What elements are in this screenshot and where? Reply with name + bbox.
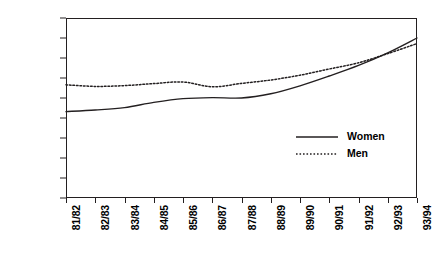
x-tick-mark xyxy=(242,198,243,203)
x-tick-mark xyxy=(154,198,155,203)
x-tick-mark xyxy=(212,198,213,203)
legend-swatch-dotted-icon xyxy=(296,149,338,159)
x-tick-label: 87/88 xyxy=(246,205,258,230)
legend-label-men: Men xyxy=(347,145,368,162)
legend-item-women: Women xyxy=(296,128,385,145)
x-tick-label: 81/82 xyxy=(70,205,82,230)
x-tick-label: 84/85 xyxy=(158,205,170,230)
x-tick-label: 86/87 xyxy=(216,205,228,230)
legend-swatch-solid-icon xyxy=(296,132,338,142)
x-tick-label: 93/94 xyxy=(421,205,433,230)
x-tick-label: 91/92 xyxy=(363,205,375,230)
x-tick-label: 88/89 xyxy=(275,205,287,230)
legend-item-men: Men xyxy=(296,145,385,162)
x-tick-mark xyxy=(125,198,126,203)
legend-label-women: Women xyxy=(347,128,385,145)
x-tick-mark xyxy=(271,198,272,203)
x-tick-label: 85/86 xyxy=(187,205,199,230)
x-tick-mark xyxy=(183,198,184,203)
x-tick-mark xyxy=(95,198,96,203)
x-tick-mark xyxy=(66,198,67,203)
x-tick-label: 82/83 xyxy=(99,205,111,230)
x-tick-label: 89/90 xyxy=(304,205,316,230)
plot-area xyxy=(66,18,417,198)
line-chart: 0100,000200,000300,000400,000500,000600,… xyxy=(0,0,447,260)
x-tick-mark xyxy=(329,198,330,203)
x-tick-label: 92/93 xyxy=(392,205,404,230)
x-tick-mark xyxy=(388,198,389,203)
x-tick-mark xyxy=(300,198,301,203)
x-tick-label: 90/91 xyxy=(333,205,345,230)
x-tick-label: 83/84 xyxy=(129,205,141,230)
x-tick-mark xyxy=(359,198,360,203)
x-tick-mark xyxy=(417,198,418,203)
chart-legend: Women Men xyxy=(296,128,385,162)
